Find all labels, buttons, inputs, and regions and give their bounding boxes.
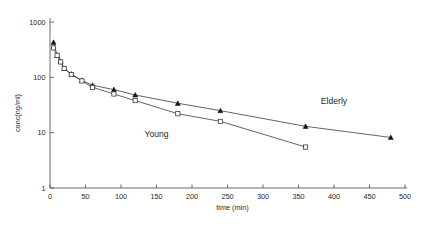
marker-young — [59, 60, 63, 64]
plot-area: 0501001502002503003504004505001101001000… — [0, 0, 426, 233]
y-tick-label: 1000 — [29, 18, 45, 27]
marker-young — [133, 98, 137, 102]
series-label-young: Young — [144, 129, 168, 139]
marker-young — [176, 112, 180, 116]
marker-young — [62, 66, 66, 70]
x-tick-label: 200 — [186, 192, 198, 201]
y-tick-label: 1 — [41, 184, 45, 193]
series-label-elderly: Elderly — [321, 96, 348, 106]
y-tick-label: 10 — [37, 128, 45, 137]
marker-elderly — [51, 40, 56, 45]
x-tick-label: 350 — [292, 192, 304, 201]
marker-young — [218, 119, 222, 123]
x-tick-label: 100 — [115, 192, 127, 201]
x-tick-label: 500 — [399, 192, 411, 201]
chart-figure: 0501001502002503003504004505001101001000… — [0, 0, 426, 233]
marker-young — [69, 73, 73, 77]
y-axis-title: conc(ng/ml) — [13, 94, 22, 132]
x-tick-label: 250 — [221, 192, 233, 201]
y-tick-label: 100 — [33, 73, 45, 82]
axes-group — [50, 18, 407, 188]
series-line-young — [54, 48, 306, 147]
x-tick-label: 300 — [257, 192, 269, 201]
marker-young — [304, 145, 308, 149]
x-tick-label: 150 — [150, 192, 162, 201]
x-tick-label: 400 — [328, 192, 340, 201]
marker-young — [55, 53, 59, 57]
x-tick-label: 0 — [48, 192, 52, 201]
tick-group — [50, 22, 405, 188]
x-tick-label: 450 — [363, 192, 375, 201]
marker-young — [91, 85, 95, 89]
marker-young — [51, 46, 55, 50]
x-axis-title: time (min) — [216, 203, 248, 212]
series-group — [51, 40, 393, 149]
marker-young — [80, 79, 84, 83]
marker-young — [112, 92, 116, 96]
x-tick-label: 50 — [81, 192, 89, 201]
